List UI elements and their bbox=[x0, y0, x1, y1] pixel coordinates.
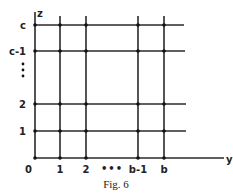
y-tick-b-1: b-1 bbox=[129, 164, 147, 175]
y-tick-1: 1 bbox=[57, 164, 64, 175]
origin-label: 0 bbox=[25, 164, 32, 175]
y-axis-label: y bbox=[226, 154, 233, 165]
z-tick-1: 1 bbox=[19, 126, 26, 137]
z-axis-label: z bbox=[37, 8, 43, 19]
lattice-diagram: z y c c-1 2 1 0 1 2 ••• b-1 b Fig. 6 bbox=[0, 0, 233, 193]
y-tick-2: 2 bbox=[83, 164, 90, 175]
z-tick-c: c bbox=[20, 20, 26, 31]
lattice-nodes bbox=[33, 23, 166, 160]
z-tick-ellipsis bbox=[22, 63, 25, 78]
y-tick-b: b bbox=[160, 164, 167, 175]
y-tick-ellipsis: ••• bbox=[101, 163, 123, 174]
z-tick-2: 2 bbox=[19, 99, 26, 110]
figure-caption: Fig. 6 bbox=[103, 178, 129, 190]
z-tick-c-1: c-1 bbox=[9, 46, 26, 57]
